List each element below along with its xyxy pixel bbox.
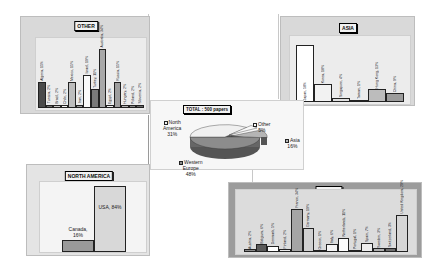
bar-turkey	[91, 89, 99, 108]
pie-label-other: Other 5%	[253, 121, 271, 133]
bar-label: Portugal, 1%	[353, 229, 357, 249]
bar-label: Japan, 58%	[303, 82, 307, 101]
north-america-panel: NORTH AMERICA Canada, 16% USA, 84%	[26, 164, 150, 256]
bar-hungary	[121, 105, 129, 108]
bar-label: Belgium, 6%	[260, 224, 264, 244]
label-canada: Canada, 16%	[62, 226, 94, 238]
bar-france	[291, 209, 303, 252]
asia-bars: Japan, 58%Korea, 18%Singapore, 4%Taiwan,…	[296, 38, 404, 102]
bar-label: Singapore, 4%	[339, 74, 343, 97]
pie-panel: TOTAL : 500 papers North America 31% Oth…	[150, 100, 304, 170]
europe-plot: Austria, 2%Belgium, 6%Denmark, 5%Finland…	[235, 189, 417, 255]
bar-brazil	[53, 105, 61, 108]
label-usa: USA, 84%	[94, 204, 126, 210]
bar-label: Finland, 2%	[283, 230, 287, 248]
bar-taiwan	[350, 100, 368, 102]
bar-label: Egypt, 2%	[108, 88, 112, 104]
bar-finland	[279, 249, 291, 252]
bar-label: Greece, 1%	[318, 231, 322, 249]
bar-italy	[326, 244, 338, 252]
bar-australia	[99, 49, 107, 108]
bar-chile	[61, 105, 69, 108]
connector-line	[278, 14, 279, 99]
bar-label: Slovenia, 2%	[138, 83, 142, 103]
bar-belgium	[256, 244, 268, 252]
bar-austria	[244, 249, 256, 252]
bar-iran	[76, 105, 84, 108]
bar-label: Hungary, 2%	[123, 84, 127, 104]
other-panel: OTHER Algeria, 15%Tunisia, 2%Brazil, 2%C…	[20, 16, 150, 114]
bar-label: Switzerland, 3%	[388, 222, 392, 247]
pie-label-north-america: North America 31%	[163, 119, 181, 137]
bar-label: Australia, 34%	[100, 25, 104, 48]
bar-china	[386, 93, 404, 102]
bar-label: Sweden, 3%	[377, 228, 381, 248]
bar-hong-kong	[368, 89, 386, 102]
bar-algeria	[38, 82, 46, 108]
bar-switzerland	[385, 248, 397, 252]
bar-poland	[129, 105, 137, 108]
bar-label: Brazil, 2%	[55, 88, 59, 104]
bar-label: Algeria, 15%	[40, 61, 44, 81]
bar-label: Netherlands, 11%	[342, 209, 346, 237]
bar-label: Spain, 7%	[365, 226, 369, 242]
pie-label-western-europe: Western Europe 48%	[179, 159, 203, 177]
europe-panel: EUROPE Austria, 2%Belgium, 6%Denmark, 5%…	[228, 182, 422, 258]
bar-israel	[83, 75, 91, 108]
bar-label: Austria, 2%	[248, 231, 252, 249]
bar-label: Denmark, 5%	[271, 223, 275, 244]
bar-label: Iran, 2%	[78, 90, 82, 103]
bar-label: Germany, 19%	[306, 204, 310, 227]
bar-sweden	[373, 248, 385, 252]
bar-label: China, 9%	[393, 76, 397, 92]
bar-slovenia	[136, 105, 144, 108]
bar-label: Tunisia, 2%	[47, 85, 51, 103]
bar-label: Italy, 6%	[330, 230, 334, 243]
bar-united-kingdom	[396, 215, 408, 252]
bar-canada	[62, 240, 94, 252]
bar-mexico	[68, 82, 76, 108]
other-plot: Algeria, 15%Tunisia, 2%Brazil, 2%Chile, …	[35, 37, 147, 111]
bar-korea	[314, 84, 332, 102]
bar-germany	[303, 228, 315, 252]
asia-plot: Japan, 58%Korea, 18%Singapore, 4%Taiwan,…	[289, 35, 411, 105]
asia-title: ASIA	[339, 23, 357, 33]
north-america-title: NORTH AMERICA	[65, 171, 113, 181]
bar-netherlands	[338, 238, 350, 252]
bar-usa	[94, 186, 126, 252]
bar-label: Turkey, 11%	[93, 69, 97, 88]
pie-label-asia: Asia 16%	[285, 137, 300, 149]
bar-denmark	[267, 246, 279, 252]
bar-label: Poland, 2%	[131, 86, 135, 104]
bar-spain	[361, 243, 373, 252]
bar-russia	[114, 82, 122, 108]
bar-label: Korea, 18%	[321, 65, 325, 83]
bar-egypt	[106, 105, 114, 108]
bar-label: Israel, 19%	[85, 56, 89, 74]
bar-label: Taiwan, 1%	[357, 81, 361, 99]
bar-singapore	[332, 98, 350, 102]
bar-label: United Kingdom, 29%	[400, 180, 404, 214]
bar-greece	[314, 250, 326, 252]
bar-label: Russia, 15%	[116, 61, 120, 81]
other-bars: Algeria, 15%Tunisia, 2%Brazil, 2%Chile, …	[38, 40, 144, 108]
other-title: OTHER	[74, 21, 98, 31]
asia-panel: ASIA Japan, 58%Korea, 18%Singapore, 4%Ta…	[280, 16, 415, 106]
bar-label: Chile, 2%	[63, 89, 67, 104]
bar-label: Mexico, 15%	[70, 61, 74, 81]
connector-line	[148, 115, 149, 165]
bar-label: France, 34%	[295, 188, 299, 208]
legend-swatch	[253, 123, 257, 127]
europe-bars: Austria, 2%Belgium, 6%Denmark, 5%Finland…	[244, 202, 408, 252]
north-america-plot: Canada, 16% USA, 84%	[39, 181, 147, 253]
bar-tunisia	[46, 105, 54, 108]
bar-label: Hong Kong, 13%	[375, 62, 379, 88]
bar-portugal	[349, 250, 361, 252]
